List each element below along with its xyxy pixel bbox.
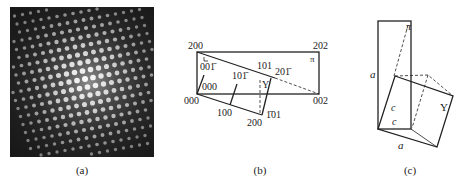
label-a-left: a (370, 68, 376, 80)
label-100: 100 (217, 107, 232, 118)
unit-cell-diagram: π a c c a Y (340, 0, 463, 186)
label-pi: π (310, 54, 315, 64)
label-001bar: 001̄ (200, 61, 217, 72)
caption-a: (a) (62, 164, 102, 176)
caption-c: (c) (390, 164, 430, 176)
label-101bar: 101̄ (232, 70, 249, 81)
label-c-lower: c (392, 116, 397, 127)
label-201bar: 201̄ (275, 66, 292, 77)
label-002: 002 (313, 95, 328, 106)
label-000: 000 (184, 95, 199, 106)
label-a-bottom: a (398, 139, 404, 151)
reciprocal-lattice-diagram: 200 202 π 001̄ 101̄ 101 201̄ Y 000 000 0… (180, 0, 340, 186)
caption-b: (b) (240, 164, 280, 176)
label-bar101: 1̄01 (266, 109, 281, 120)
label-200-bottom: 200 (247, 117, 262, 128)
diffraction-pattern-image (10, 7, 154, 157)
label-200-top: 200 (188, 40, 203, 51)
label-c-upper: c (391, 102, 396, 113)
diagonal-dashed (275, 78, 319, 94)
label-101: 101 (257, 60, 272, 71)
label-000-inner: 000 (202, 81, 217, 92)
label-Y: Y (262, 79, 269, 90)
dashed-to-pi (394, 25, 408, 76)
label-Y: Y (440, 101, 448, 113)
diffraction-spots (10, 7, 154, 157)
label-202: 202 (313, 40, 328, 51)
cube-bottom-thin (411, 129, 437, 147)
